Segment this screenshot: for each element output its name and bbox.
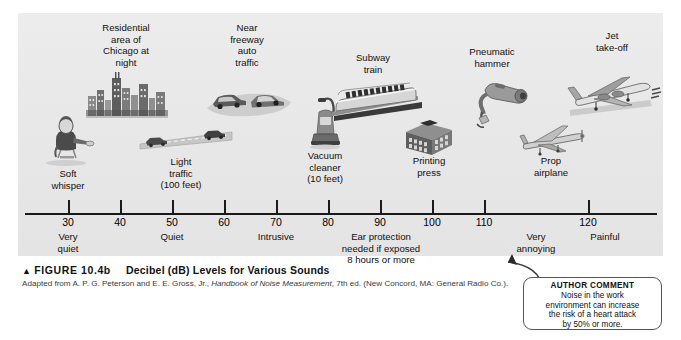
axis-tick-90	[380, 200, 382, 213]
axis-descriptor-painful: Painful	[579, 231, 631, 243]
axis-tick-60	[224, 200, 226, 213]
author-comment-title: AUTHOR COMMENT	[524, 281, 661, 290]
axis-tick-30	[68, 200, 70, 213]
printing-press-illustration	[400, 118, 458, 158]
axis-tick-40	[120, 200, 122, 213]
axis-label-70: 70	[256, 216, 296, 228]
figure-caption-heading: ▲ FIGURE 10.4b Decibel (dB) Levels for V…	[22, 264, 508, 276]
author-comment-box: AUTHOR COMMENT Noise in the work environ…	[523, 277, 662, 330]
axis-descriptor-ear-protection: Ear protection needed if exposed 8 hours…	[325, 231, 437, 266]
figure-source: Adapted from A. P. G. Peterson and E. E.…	[22, 279, 508, 289]
triangle-marker-icon: ▲	[22, 266, 31, 276]
author-comment-body: Noise in the work environment can increa…	[524, 291, 661, 329]
sound-label-prop-airplane: Prop airplane	[520, 155, 582, 178]
chicago-skyline-illustration	[86, 70, 168, 118]
axis-tick-120	[588, 200, 590, 213]
axis-label-110: 110	[464, 216, 504, 228]
sound-label-soft-whisper: Soft whisper	[38, 168, 98, 191]
axis-tick-100	[432, 200, 434, 213]
axis-label-120: 120	[568, 216, 608, 228]
axis-label-90: 90	[360, 216, 400, 228]
axis-label-30: 30	[48, 216, 88, 228]
figure-caption: ▲ FIGURE 10.4b Decibel (dB) Levels for V…	[22, 264, 508, 289]
sound-label-vacuum-cleaner: Vacuum cleaner (10 feet)	[292, 150, 358, 185]
sound-label-pneumatic-hammer: Pneumatic hammer	[453, 46, 531, 69]
figure-source-prefix: Adapted from A. P. G. Peterson and E. E.…	[22, 279, 211, 288]
axis-descriptor-quiet: Quiet	[146, 231, 198, 243]
light-traffic-illustration	[138, 122, 234, 150]
axis-label-50: 50	[152, 216, 192, 228]
sound-label-residential: Residential area of Chicago at night	[88, 22, 164, 68]
axis-label-100: 100	[412, 216, 452, 228]
sound-label-printing-press: Printing press	[398, 155, 460, 178]
figure-number: FIGURE 10.4b	[34, 264, 111, 276]
decibel-axis-line	[25, 213, 657, 215]
axis-label-80: 80	[308, 216, 348, 228]
figure-source-italic: Handbook of Noise Measurement	[211, 279, 332, 288]
axis-tick-80	[328, 200, 330, 213]
axis-descriptor-intrusive: Intrusive	[246, 231, 306, 243]
figure-source-suffix: , 7th ed. (New Concord, MA: General Radi…	[332, 279, 508, 288]
freeway-traffic-illustration	[205, 78, 293, 118]
subway-train-illustration	[330, 80, 426, 122]
sound-label-subway-train: Subway train	[341, 52, 405, 75]
soft-whisper-illustration	[38, 112, 96, 168]
axis-tick-110	[484, 200, 486, 213]
axis-descriptor-very-quiet: Very quiet	[42, 231, 94, 254]
axis-tick-70	[276, 200, 278, 213]
axis-label-40: 40	[100, 216, 140, 228]
jet-takeoff-illustration	[566, 66, 662, 118]
axis-label-60: 60	[204, 216, 244, 228]
axis-tick-50	[172, 200, 174, 213]
sound-label-light-traffic: Light traffic (100 feet)	[150, 156, 212, 191]
prop-airplane-illustration	[518, 120, 588, 158]
figure-title: Decibel (dB) Levels for Various Sounds	[126, 264, 330, 276]
sound-label-freeway-traffic: Near freeway auto traffic	[213, 22, 281, 68]
sound-label-jet-takeoff: Jet take-off	[580, 30, 644, 53]
